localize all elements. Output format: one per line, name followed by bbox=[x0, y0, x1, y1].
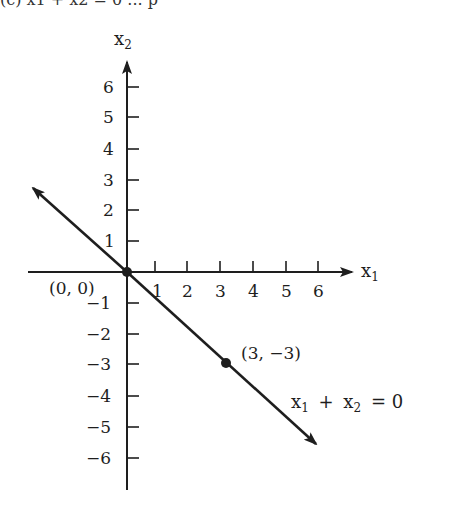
y-tick-label: 2 bbox=[103, 202, 114, 219]
y-tick-label: −3 bbox=[86, 356, 111, 373]
equation-label: x1 + x2 = 0 bbox=[291, 393, 403, 414]
y-axis-label: x2 bbox=[114, 30, 132, 51]
y-tick-label: 1 bbox=[104, 233, 115, 250]
y-tick-label: −6 bbox=[86, 450, 111, 467]
point-origin bbox=[122, 267, 132, 277]
equation-var-2: x bbox=[343, 391, 353, 412]
y-tick-label: −4 bbox=[86, 388, 111, 405]
y-axis-label-sub: 2 bbox=[124, 38, 132, 52]
x-tick-label: 1 bbox=[152, 283, 163, 300]
equation-var-2-sub: 2 bbox=[354, 401, 362, 415]
x-axis-label-main: x bbox=[361, 260, 371, 281]
equation-rhs: = 0 bbox=[371, 391, 403, 412]
x-axis-label: x1 bbox=[361, 262, 379, 283]
point-label: (3, −3) bbox=[241, 345, 301, 362]
x-tick-label: 6 bbox=[313, 283, 324, 300]
x-tick-label: 3 bbox=[215, 283, 226, 300]
equation-var-1: x bbox=[291, 391, 301, 412]
y-tick-label: −2 bbox=[86, 326, 111, 343]
equation-plus: + bbox=[319, 391, 334, 412]
y-tick-label: 4 bbox=[103, 141, 114, 158]
plot-canvas bbox=[0, 0, 451, 512]
x-axis-label-sub: 1 bbox=[371, 270, 379, 284]
y-tick-label: 6 bbox=[103, 79, 114, 96]
y-tick-label: −5 bbox=[86, 419, 111, 436]
y-tick-label: 5 bbox=[103, 109, 114, 126]
origin-label: (0, 0) bbox=[49, 280, 95, 297]
y-tick-label: 3 bbox=[103, 172, 114, 189]
equation-var-1-sub: 1 bbox=[301, 401, 309, 415]
point-3-neg3 bbox=[221, 358, 231, 368]
x-tick-label: 2 bbox=[182, 283, 193, 300]
x-tick-label: 5 bbox=[281, 283, 292, 300]
x-tick-label: 4 bbox=[248, 283, 259, 300]
x-ticks bbox=[155, 261, 318, 272]
y-axis-label-main: x bbox=[114, 28, 124, 49]
